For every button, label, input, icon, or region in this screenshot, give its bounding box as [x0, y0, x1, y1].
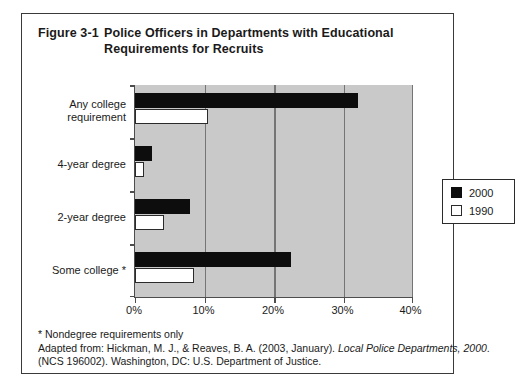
x-axis-tick-label-10: 10%	[184, 304, 224, 316]
bar-chart: Any college requirement 4-year degree 2-…	[22, 64, 455, 324]
x-axis-tick	[205, 297, 207, 303]
chart-legend: 2000 1990	[442, 179, 515, 224]
plot-area: 2000 1990	[134, 85, 413, 298]
bar-1990-4-year-degree	[135, 162, 144, 177]
legend-item-2000: 2000	[451, 187, 493, 201]
x-axis-tick-label-20: 20%	[253, 304, 293, 316]
y-axis-label-line1: 4-year degree	[18, 158, 126, 171]
x-axis-tick-label-30: 30%	[323, 304, 363, 316]
x-axis-tick	[274, 297, 276, 303]
bar-group-any-college	[135, 85, 413, 138]
y-axis-label-line2: requirement	[18, 111, 126, 124]
filled-square-icon	[451, 187, 462, 198]
footnote-source-text: Adapted from: Hickman, M. J., & Reaves, …	[38, 342, 338, 354]
bar-1990-some-college	[135, 268, 194, 283]
bar-1990-2-year-degree	[135, 215, 164, 230]
x-axis-tick-label-40: 40%	[391, 304, 431, 316]
legend-item-1990: 1990	[451, 205, 493, 219]
y-axis-label-line1: Any college	[18, 98, 126, 111]
x-axis-tick	[135, 297, 137, 303]
legend-label-1990: 1990	[469, 205, 493, 217]
bar-2000-any-college	[135, 93, 358, 108]
y-axis-label-line1: Some college *	[18, 264, 126, 277]
figure-number: Figure 3-1	[38, 25, 104, 41]
bar-group-2-year-degree	[135, 191, 413, 244]
y-axis-label-4-year-degree: 4-year degree	[18, 158, 126, 171]
x-axis-tick	[412, 297, 414, 303]
bar-2000-4-year-degree	[135, 146, 152, 161]
y-axis-label-line1: 2-year degree	[18, 211, 126, 224]
bar-2000-some-college	[135, 252, 291, 267]
footnote-source-line1: Adapted from: Hickman, M. J., & Reaves, …	[38, 342, 442, 356]
legend-label-2000: 2000	[469, 187, 493, 199]
figure-container: Figure 3-1Police Officers in Departments…	[21, 13, 454, 374]
figure-footnotes: * Nondegree requirements only Adapted fr…	[38, 328, 442, 369]
page-title: Police Officers in Departments with Educ…	[104, 25, 426, 57]
y-axis-label-2-year-degree: 2-year degree	[18, 211, 126, 224]
x-axis-tick	[344, 297, 346, 303]
hollow-square-icon	[451, 205, 462, 216]
footnote-asterisk: * Nondegree requirements only	[38, 328, 442, 342]
bar-2000-2-year-degree	[135, 199, 190, 214]
footnote-source-italic-title: Local Police Departments, 2000	[338, 342, 487, 354]
bar-group-4-year-degree	[135, 138, 413, 191]
y-axis-label-some-college: Some college *	[18, 264, 126, 277]
bar-group-some-college	[135, 244, 413, 297]
y-axis-label-any-college: Any college requirement	[18, 98, 126, 124]
bar-1990-any-college	[135, 109, 208, 124]
figure-title-block: Figure 3-1Police Officers in Departments…	[38, 25, 438, 57]
x-axis-tick-label-0: 0%	[114, 304, 154, 316]
footnote-source-line2: (NCS 196002). Washington, DC: U.S. Depar…	[38, 355, 442, 369]
